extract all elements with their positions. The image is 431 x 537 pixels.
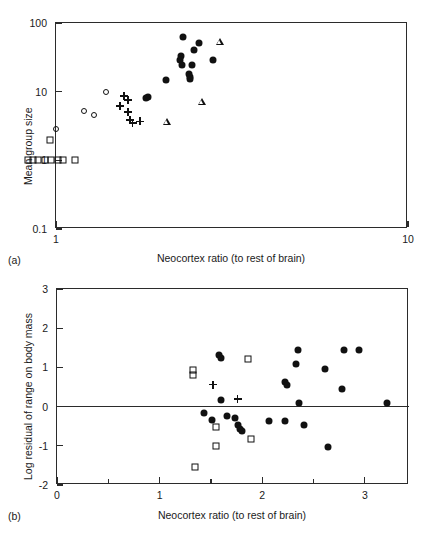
data-point-filled-circle (293, 361, 300, 368)
x-tick-label: 1 (53, 234, 59, 245)
panel-a-y-axis-title: Mean group size (22, 107, 34, 185)
data-point-open-circle (81, 108, 87, 114)
y-tick-mark (57, 484, 63, 485)
data-point-filled-circle (266, 417, 273, 424)
data-point-filled-circle (384, 400, 391, 407)
x-tick-mark (262, 477, 263, 483)
data-point-filled-circle (296, 399, 303, 406)
data-point-open-circle (53, 126, 59, 132)
y-tick-label: -1 (39, 441, 48, 452)
data-point-open-square (191, 464, 198, 471)
data-point-filled-circle (142, 94, 149, 101)
y-tick-label: 100 (29, 18, 47, 29)
data-point-plus (116, 102, 124, 110)
data-point-filled-circle (195, 39, 202, 46)
data-point-filled-circle (200, 410, 207, 417)
data-point-filled-circle (339, 386, 346, 393)
x-tick-mark (56, 477, 57, 483)
y-tick-label: 0.1 (32, 224, 47, 235)
y-tick-label: 3 (42, 284, 48, 295)
data-point-filled-circle (190, 46, 197, 53)
data-point-filled-circle (180, 33, 187, 40)
panel-b-x-axis-title: Neocortex ratio (to rest of brain) (56, 509, 408, 521)
y-tick-mark (57, 445, 63, 446)
data-point-filled-circle (224, 412, 231, 419)
panel-a-x-axis-title: Neocortex ratio (to rest of brain) (55, 252, 407, 264)
data-point-filled-circle (187, 75, 194, 82)
x-tick-label: 2 (259, 490, 265, 501)
data-point-filled-circle (295, 346, 302, 353)
data-point-filled-circle (162, 76, 169, 83)
x-tick-mark (159, 477, 160, 483)
data-point-filled-circle (189, 61, 196, 68)
data-point-filled-circle (301, 422, 308, 429)
plot-area-a: 0.1110100110 (55, 22, 407, 228)
plot-area-b: -2-101230123 (56, 288, 408, 484)
data-point-plus (209, 381, 217, 389)
data-point-filled-circle (218, 354, 225, 361)
data-point-filled-circle (321, 365, 328, 372)
x-tick-label: 0 (54, 490, 60, 501)
y-tick-label: -2 (39, 480, 48, 491)
panel-b: -2-101230123 (b) Neocortex ratio (to res… (0, 270, 431, 537)
y-tick-mark (57, 328, 63, 329)
data-point-open-square (213, 423, 220, 430)
x-tick-label: 3 (362, 490, 368, 501)
y-tick-label: 10 (35, 86, 47, 97)
x-tick-mark (55, 221, 56, 227)
data-point-filled-circle (281, 417, 288, 424)
data-point-open-square (60, 157, 67, 164)
panel-b-y-axis-title: Log residual of range on body mass (22, 313, 34, 480)
data-point-open-square (190, 372, 197, 379)
panel-a: 0.1110100110 (a) Neocortex ratio (to res… (0, 0, 431, 270)
figure-container: 0.1110100110 (a) Neocortex ratio (to res… (0, 0, 431, 537)
data-point-filled-circle (355, 346, 362, 353)
data-point-open-square (46, 136, 53, 143)
y-tick-label: 1 (42, 362, 48, 373)
data-point-filled-circle (178, 61, 185, 68)
data-point-filled-circle (283, 382, 290, 389)
data-point-filled-circle (210, 56, 217, 63)
data-point-plus (234, 395, 242, 403)
x-tick-label: 1 (157, 490, 163, 501)
zero-reference-line (57, 406, 409, 407)
data-point-plus (124, 96, 132, 104)
y-tick-mark (56, 91, 62, 92)
data-point-plus (124, 108, 132, 116)
panel-a-tag: (a) (8, 254, 21, 266)
x-tick-label: 10 (402, 234, 414, 245)
data-point-plus (136, 117, 144, 125)
data-point-filled-circle (218, 396, 225, 403)
data-point-filled-circle (341, 346, 348, 353)
data-point-filled-circle (238, 427, 245, 434)
y-tick-label: 2 (42, 323, 48, 334)
data-point-open-square (213, 442, 220, 449)
y-tick-mark (56, 22, 62, 23)
x-minor-tick-mark (313, 479, 314, 483)
x-minor-tick-mark (108, 479, 109, 483)
y-tick-label: 0 (42, 401, 48, 412)
data-point-open-square (244, 355, 251, 362)
x-minor-tick-mark (364, 479, 365, 483)
data-point-filled-circle (208, 416, 215, 423)
y-tick-mark (57, 288, 63, 289)
data-point-open-circle (91, 112, 97, 118)
data-point-open-square (247, 436, 254, 443)
data-point-open-square (71, 157, 78, 164)
x-minor-tick-mark (210, 479, 211, 483)
panel-b-tag: (b) (8, 510, 21, 522)
x-tick-mark (407, 221, 408, 227)
y-tick-mark (56, 228, 62, 229)
data-point-open-circle (103, 89, 109, 95)
y-tick-mark (57, 367, 63, 368)
data-point-filled-circle (324, 443, 331, 450)
